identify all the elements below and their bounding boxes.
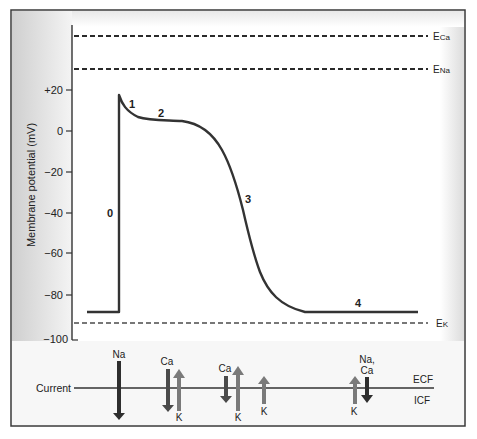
y-tick-label: −80 — [44, 289, 63, 301]
phase-label-1: 1 — [129, 98, 135, 110]
phase-label-3: 3 — [245, 193, 251, 205]
ecf-label: ECF — [413, 374, 433, 385]
phase-label-0: 0 — [107, 207, 113, 219]
current-label: Current — [36, 382, 71, 394]
action-potential-figure: +20 0 −20 −40 −60 −80 −100 Membrane pote… — [0, 0, 477, 439]
ion-label-naca-line2: Ca — [361, 365, 374, 376]
y-tick-label: 0 — [57, 125, 63, 137]
ion-label-k: K — [351, 406, 358, 417]
ion-label-k: K — [261, 406, 268, 417]
ena-label: ENa — [433, 64, 450, 75]
icf-label: ICF — [414, 395, 430, 406]
phase-label-4: 4 — [355, 297, 362, 309]
ion-label-na: Na — [113, 349, 126, 360]
phase-label-2: 2 — [158, 107, 164, 119]
y-tick-label: −60 — [44, 247, 63, 259]
eca-label: ECa — [433, 31, 450, 42]
ion-label-k: K — [235, 412, 242, 423]
ion-label-naca-line1: Na, — [359, 354, 375, 365]
figure-frame — [11, 10, 465, 426]
y-tick-label: +20 — [44, 84, 63, 96]
ion-label-ca: Ca — [161, 356, 174, 367]
ek-label: EK — [436, 318, 449, 329]
ion-label-ca: Ca — [219, 363, 232, 374]
y-tick-label: −20 — [44, 166, 63, 178]
y-tick-label: −40 — [44, 207, 63, 219]
y-tick-label: −100 — [43, 333, 68, 345]
ion-label-k: K — [176, 412, 183, 423]
y-axis-label: Membrane potential (mV) — [25, 123, 37, 247]
